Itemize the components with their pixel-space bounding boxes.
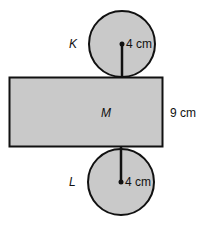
center-dot-l xyxy=(119,180,124,185)
radius-label-k: 4 cm xyxy=(126,37,152,51)
cylinder-net-diagram: K 4 cm M 9 cm L 4 cm xyxy=(0,0,208,226)
rectangle-m xyxy=(10,78,163,147)
label-m: M xyxy=(101,106,111,120)
label-l: L xyxy=(69,175,76,189)
label-k: K xyxy=(69,37,78,51)
center-dot-k xyxy=(120,42,125,47)
height-label-m: 9 cm xyxy=(170,106,196,120)
radius-label-l: 4 cm xyxy=(125,175,151,189)
